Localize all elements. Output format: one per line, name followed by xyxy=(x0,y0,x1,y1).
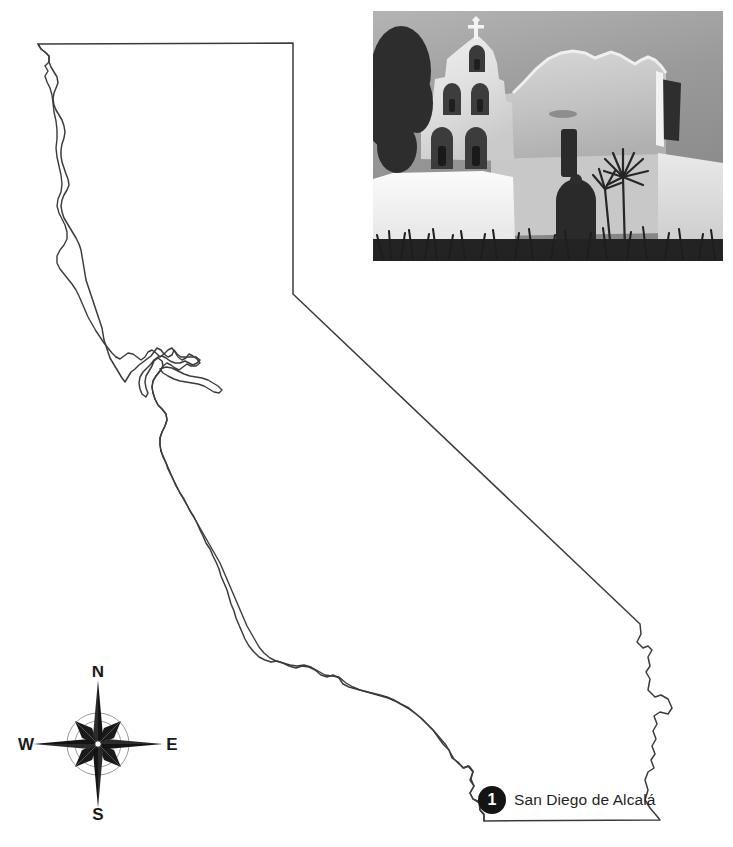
mission-photo[interactable] xyxy=(373,11,723,261)
photo-right-wall-dark-panel xyxy=(661,79,681,141)
photo-bell-3 xyxy=(477,99,483,112)
marker-label-text: San Diego de Alcalá xyxy=(514,791,656,809)
photo-bell-5 xyxy=(472,146,480,166)
photo-door-finial xyxy=(570,174,582,186)
photo-right-wall xyxy=(658,153,723,239)
photo-bell-2 xyxy=(449,99,455,112)
compass-label-east: E xyxy=(166,735,177,754)
map-page: N S E W 1 San Diego de Alcalá xyxy=(0,0,733,847)
compass-rose-svg: N S E W xyxy=(18,666,178,822)
compass-label-west: W xyxy=(18,735,35,754)
mission-photo-image xyxy=(373,11,723,261)
photo-right-wall-edge xyxy=(656,71,664,147)
photo-window xyxy=(561,129,577,177)
compass-label-north: N xyxy=(92,666,104,681)
compass-center-hub xyxy=(95,741,101,747)
compass-label-south: S xyxy=(92,805,103,822)
photo-bell-4 xyxy=(438,146,446,166)
mission-marker-san-diego[interactable]: 1 San Diego de Alcalá xyxy=(478,786,656,814)
marker-number-badge[interactable]: 1 xyxy=(478,786,506,814)
compass-rose: N S E W xyxy=(18,666,178,822)
photo-bell-1 xyxy=(474,59,480,70)
photo-vent xyxy=(549,110,577,118)
